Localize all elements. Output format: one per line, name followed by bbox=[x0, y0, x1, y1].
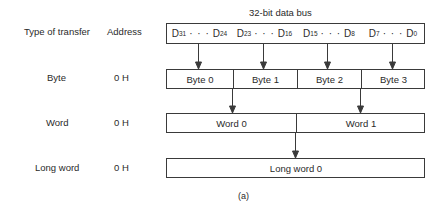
connector-arrows bbox=[0, 0, 445, 209]
figure-caption: (a) bbox=[238, 191, 249, 201]
